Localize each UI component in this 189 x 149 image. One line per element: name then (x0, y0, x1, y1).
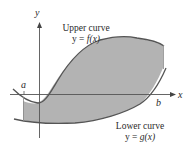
upper-eq-lhs: y = (72, 34, 87, 44)
y-axis-arrow-icon (37, 22, 42, 28)
upper-curve-equation: y = f(x) (56, 34, 116, 45)
lower-eq-arg: (x) (145, 132, 156, 142)
upper-curve-caption: Upper curve y = f(x) (56, 23, 116, 45)
y-axis-label: y (34, 7, 40, 18)
upper-eq-arg: (x) (89, 34, 100, 44)
b-label: b (156, 97, 161, 108)
lower-curve-caption: Lower curve y = g(x) (110, 121, 170, 143)
lower-curve-title: Lower curve (110, 121, 170, 132)
shaded-region (23, 37, 163, 124)
upper-curve-title: Upper curve (56, 23, 116, 34)
a-label: a (21, 79, 26, 90)
x-axis-arrow-icon (170, 92, 176, 97)
x-axis-label: x (177, 89, 183, 100)
lower-eq-lhs: y = (125, 132, 140, 142)
lower-curve-equation: y = g(x) (110, 132, 170, 143)
